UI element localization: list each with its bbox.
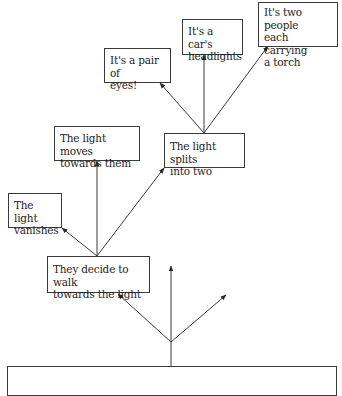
arrow-walk-to-vanishes <box>62 228 97 256</box>
node-light-splits: The light splits into two <box>164 133 245 168</box>
node-two-people-torch: It's two people each carrying a torch <box>258 2 338 47</box>
arrow-root-to-walk <box>118 294 171 342</box>
arrow-walk-to-splits <box>97 168 164 256</box>
node-light-moves: The light moves towards them <box>54 126 140 161</box>
arrow-root-to-unlabeled-right <box>171 295 226 342</box>
node-light-vanishes: The light vanishes <box>8 193 62 228</box>
node-car-headlights: It's a car's headlights <box>182 19 243 55</box>
node-root <box>7 366 337 396</box>
arrow-splits-to-eyes <box>160 83 204 133</box>
node-walk-towards-light: They decide to walk towards the light <box>47 256 150 293</box>
node-pair-of-eyes: It's a pair of eyes! <box>104 48 171 83</box>
